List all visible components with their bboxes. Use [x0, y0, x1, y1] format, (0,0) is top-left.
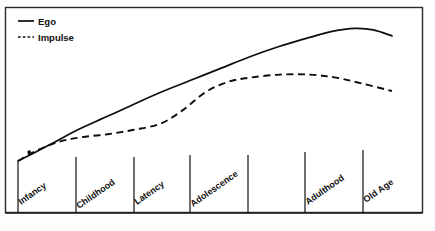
legend-label-ego: Ego — [38, 16, 56, 27]
origin-dot-marker — [27, 150, 31, 154]
line-chart-canvas: Ego Impulse Infancy Childhood Latency Ad… — [0, 0, 435, 231]
legend-label-impulse: Impulse — [38, 32, 74, 43]
chart-figure: Ego Impulse Infancy Childhood Latency Ad… — [0, 0, 435, 231]
